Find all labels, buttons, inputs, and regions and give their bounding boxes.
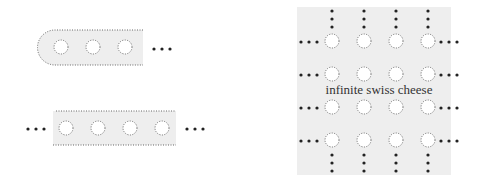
infinite-strip — [26, 111, 204, 145]
swiss-cheese-label: infinite swiss cheese — [297, 82, 461, 98]
ellipsis-left-icon — [26, 127, 45, 130]
ellipsis-right-icon — [185, 127, 204, 130]
half-infinite-strip — [38, 30, 172, 65]
hole-icon — [54, 40, 132, 54]
ellipsis-right-icon — [152, 47, 171, 50]
